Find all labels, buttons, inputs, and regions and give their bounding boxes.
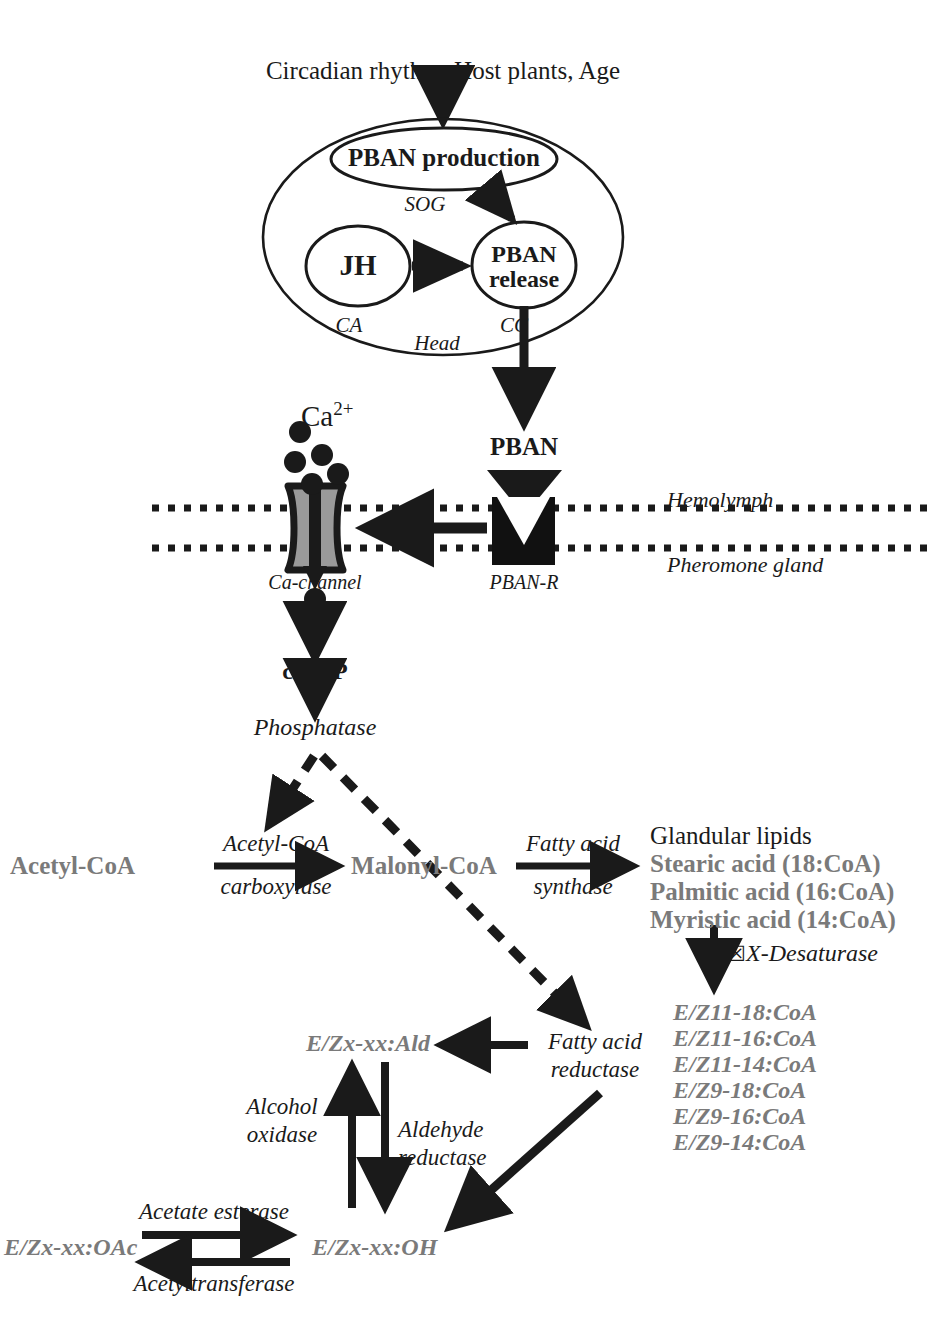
ca-channel-label: Ca-channel: [268, 572, 361, 594]
acetyl-coa-label: Acetyl-CoA: [10, 852, 135, 879]
calcium-symbol: Ca: [301, 400, 333, 432]
pban-production-label: PBAN production: [348, 144, 540, 171]
pheromone-gland-label: Pheromone gland: [667, 553, 823, 577]
acetyl-coa-carboxylase-label: Acetyl-CoA carboxylase: [220, 832, 331, 898]
glandular-lipid-item: Stearic acid (18:CoA): [650, 850, 881, 877]
fatty-acid-synthase-label: Fatty acid synthase: [526, 832, 620, 898]
hemolymph-label: Hemolymph: [667, 488, 773, 512]
aldehyde-label: E/Zx-xx:Ald: [306, 1031, 430, 1057]
alcohol-label: E/Zx-xx:OH: [312, 1235, 437, 1261]
fatty-acid-synthase-line-1: Fatty acid: [526, 832, 620, 855]
malonyl-coa-label: Malonyl-CoA: [351, 852, 497, 879]
stimuli-label: Circadian rhythm, Host plants, Age: [266, 57, 620, 84]
calcium-label: Ca2+: [301, 399, 353, 432]
calcium-charge: 2+: [333, 398, 353, 419]
pban-release-label: PBAN release: [489, 242, 559, 292]
calcium-ion: [301, 473, 323, 495]
coa-product-item: E/Z9-18:CoA: [673, 1078, 806, 1104]
fatty-acid-reductase-line-1: Fatty acid: [548, 1030, 642, 1053]
camp-label: cAMP: [282, 659, 347, 685]
fatty-acid-synthase-line-2: synthase: [526, 875, 620, 898]
fatty-acid-reductase-line-2: reductase: [548, 1058, 642, 1081]
alcohol-oxidase-line-1: Alcohol: [246, 1095, 318, 1118]
cc-label: CC: [500, 314, 528, 337]
head-region-label: Head: [414, 332, 460, 355]
coa-product-item: E/Z11-18:CoA: [673, 1000, 817, 1026]
aldehyde-reductase-line-1: Aldehyde: [398, 1118, 487, 1141]
pban-release-line-1: PBAN: [489, 242, 559, 267]
acetate-esterase-label: Acetate esterase: [139, 1200, 289, 1225]
aldehyde-reductase-line-2: reductase: [398, 1146, 487, 1169]
phosphatase-label: Phosphatase: [254, 715, 377, 741]
desaturase-glyph-icon: ☒: [727, 942, 746, 966]
glandular-lipid-item: Myristic acid (14:CoA): [650, 906, 896, 933]
pban-label: PBAN: [490, 433, 558, 460]
ca-channel-pore: [309, 489, 321, 567]
pban-receptor-label: PBAN-R: [490, 572, 559, 594]
aldehyde-reductase-label: Aldehyde reductase: [398, 1118, 487, 1169]
coa-product-item: E/Z11-16:CoA: [673, 1026, 817, 1052]
pban-release-line-2: release: [489, 267, 559, 292]
calcium-ion: [327, 463, 349, 485]
acetyl-coa-carboxylase-line-2: carboxylase: [220, 875, 331, 898]
coa-product-item: E/Z9-16:CoA: [673, 1104, 806, 1130]
glandular-lipid-item: Palmitic acid (16:CoA): [650, 878, 894, 905]
pathway-diagram: Circadian rhythm, Host plants, Age PBAN …: [0, 0, 945, 1335]
acetyltransferase-label: Acetyltransferase: [134, 1272, 295, 1297]
calcium-ion: [311, 444, 333, 466]
coa-product-item: E/Z9-14:CoA: [673, 1130, 806, 1156]
coa-product-item: E/Z11-14:CoA: [673, 1052, 817, 1078]
phosphatase-to-carboxylase-dashed-arrow: [271, 756, 314, 822]
sog-label: SOG: [405, 193, 446, 216]
acetate-label: E/Zx-xx:OAc: [4, 1235, 137, 1261]
production-to-release-arrow: [484, 186, 512, 219]
desaturase-text: X-Desaturase: [746, 940, 878, 966]
desaturase-label: ☒X-Desaturase: [727, 941, 878, 967]
alcohol-oxidase-line-2: oxidase: [246, 1123, 318, 1146]
glandular-lipids-heading: Glandular lipids: [650, 822, 812, 849]
fatty-acid-reductase-label: Fatty acid reductase: [548, 1030, 642, 1081]
jh-label: JH: [339, 250, 376, 281]
acetyl-coa-carboxylase-line-1: Acetyl-CoA: [220, 832, 331, 855]
alcohol-oxidase-label: Alcohol oxidase: [246, 1095, 318, 1146]
ca-label: CA: [336, 314, 363, 337]
calcium-ion: [284, 451, 306, 473]
